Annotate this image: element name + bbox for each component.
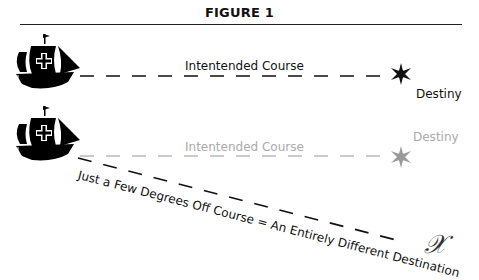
star-icon-top <box>391 63 411 85</box>
intended-course-label-bottom: Intentended Course <box>185 140 304 154</box>
intended-course-label-top: Intentended Course <box>185 59 304 73</box>
destiny-label-top: Destiny <box>416 87 462 101</box>
star-icon-bottom <box>391 146 411 168</box>
ship-icon-top <box>16 34 80 88</box>
destiny-label-bottom: Destiny <box>413 130 459 144</box>
ship-icon-bottom <box>16 106 80 160</box>
off-course-line <box>78 158 400 241</box>
x-marker-icon: 𝒳 <box>424 229 446 260</box>
